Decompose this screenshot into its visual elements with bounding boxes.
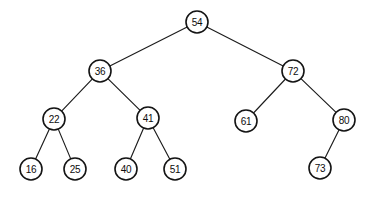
tree-canvas: 543672224161801625405173 bbox=[0, 0, 369, 197]
tree-edge bbox=[130, 128, 143, 159]
tree-edge bbox=[325, 130, 339, 158]
tree-node[interactable]: 72 bbox=[282, 60, 304, 82]
node-layer: 543672224161801625405173 bbox=[20, 11, 355, 180]
node-label: 36 bbox=[95, 66, 106, 77]
tree-node[interactable]: 54 bbox=[186, 11, 208, 33]
tree-node[interactable]: 36 bbox=[89, 60, 111, 82]
node-label: 40 bbox=[121, 164, 132, 175]
node-label: 80 bbox=[339, 115, 350, 126]
binary-search-tree-figure: 543672224161801625405173 bbox=[0, 0, 369, 197]
tree-edge bbox=[254, 79, 286, 113]
node-label: 22 bbox=[49, 114, 60, 125]
tree-edge bbox=[62, 79, 93, 111]
tree-edge bbox=[207, 27, 283, 66]
tree-node[interactable]: 16 bbox=[20, 158, 42, 180]
tree-edge bbox=[36, 129, 50, 159]
tree-edge bbox=[58, 129, 70, 159]
node-label: 41 bbox=[143, 113, 154, 124]
tree-node[interactable]: 61 bbox=[235, 110, 257, 132]
tree-node[interactable]: 22 bbox=[43, 108, 65, 130]
edge-layer bbox=[36, 27, 339, 159]
tree-node[interactable]: 51 bbox=[164, 158, 186, 180]
node-label: 72 bbox=[288, 66, 299, 77]
node-label: 16 bbox=[26, 164, 37, 175]
tree-edge bbox=[110, 27, 187, 66]
tree-node[interactable]: 40 bbox=[115, 158, 137, 180]
tree-edge bbox=[153, 128, 170, 160]
node-label: 54 bbox=[192, 17, 203, 28]
tree-node[interactable]: 25 bbox=[64, 158, 86, 180]
tree-edge bbox=[301, 79, 336, 113]
node-label: 73 bbox=[315, 163, 326, 174]
tree-node[interactable]: 80 bbox=[333, 109, 355, 131]
node-label: 25 bbox=[70, 164, 81, 175]
node-label: 61 bbox=[241, 116, 252, 127]
tree-node[interactable]: 73 bbox=[309, 157, 331, 179]
node-label: 51 bbox=[170, 164, 181, 175]
tree-edge bbox=[108, 79, 140, 111]
tree-node[interactable]: 41 bbox=[137, 107, 159, 129]
